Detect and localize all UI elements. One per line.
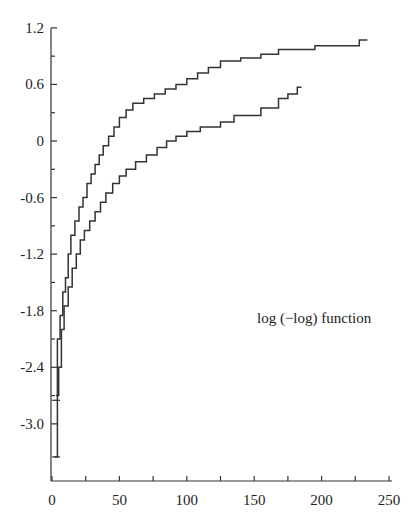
y-axis: 1.20.60-0.6-1.2-1.8-2.4-3.0 [20,20,57,481]
x-tick-label: 200 [310,492,333,508]
step-chart: 1.20.60-0.6-1.2-1.8-2.4-3.0 050100150200… [0,0,414,517]
x-tick-label: 100 [176,492,199,508]
curves [52,40,367,457]
y-tick-label: -0.6 [20,190,44,206]
x-tick-label: 50 [112,492,127,508]
step-curve-upper [55,40,368,457]
chart-annotation: log (−log) function [257,310,372,327]
x-tick-label: 250 [378,492,401,508]
x-tick-label: 150 [243,492,266,508]
y-tick-label: 0 [37,133,45,149]
y-tick-label: -3.0 [20,416,44,432]
x-axis: 050100150200250 [48,476,400,508]
y-tick-label: -1.8 [20,303,44,319]
y-tick-label: -1.2 [20,246,44,262]
y-tick-label: -2.4 [20,359,44,375]
x-tick-label: 0 [48,492,56,508]
y-tick-label: 1.2 [25,20,44,36]
step-curve-lower [56,87,301,395]
y-tick-label: 0.6 [25,76,44,92]
